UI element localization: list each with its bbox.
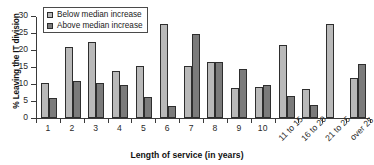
bar-group (346, 17, 370, 118)
y-tick-label: 10 (18, 78, 28, 88)
bar (302, 89, 310, 118)
y-tick-label: 0 (23, 112, 28, 122)
legend-label: Above median increase (57, 21, 143, 30)
x-tick-label: 1 (46, 123, 51, 133)
x-tick-label: 6 (165, 123, 170, 133)
bar (255, 87, 263, 118)
legend: Below median increaseAbove median increa… (43, 7, 148, 33)
bar (96, 83, 104, 118)
bar (73, 81, 81, 118)
y-tick: 15 (31, 67, 36, 68)
bar (160, 24, 168, 118)
legend-swatch (47, 12, 53, 18)
y-tick-label: 30 (18, 10, 28, 20)
bar-group (180, 17, 204, 118)
bar (239, 69, 247, 118)
y-tick: 25 (31, 33, 36, 34)
x-tick-label: 2 (69, 123, 74, 133)
x-tick-label: 4 (117, 123, 122, 133)
x-tick-label: 9 (236, 123, 241, 133)
bar-group (275, 17, 299, 118)
x-tick-label: 7 (189, 123, 194, 133)
bar (358, 64, 366, 118)
bar (65, 47, 73, 118)
legend-item: Below median increase (47, 10, 143, 19)
y-tick: 20 (31, 50, 36, 51)
y-tick-label: 15 (18, 61, 28, 71)
bar-group (299, 17, 323, 118)
bar (112, 71, 120, 118)
bar (49, 98, 57, 118)
bar (207, 62, 215, 118)
bar (136, 66, 144, 118)
legend-swatch (47, 23, 53, 29)
y-tick-label: 5 (23, 95, 28, 105)
bar (88, 42, 96, 118)
bar (184, 66, 192, 118)
x-tick-label: 8 (213, 123, 218, 133)
bar (215, 62, 223, 118)
bar (168, 106, 176, 118)
bar (41, 83, 49, 118)
y-tick: 5 (31, 101, 36, 102)
y-tick: 30 (31, 16, 36, 17)
legend-item: Above median increase (47, 21, 143, 30)
x-tick-label: 5 (141, 123, 146, 133)
legend-label: Below median increase (57, 10, 142, 19)
bar-group (203, 17, 227, 118)
bar-chart: % Leaving the IT division 051015202530 1… (0, 0, 374, 165)
bar (350, 78, 358, 118)
bar (279, 45, 287, 118)
y-tick-label: 25 (18, 27, 28, 37)
bar (144, 97, 152, 118)
bar (120, 85, 128, 118)
y-tick-label: 20 (18, 44, 28, 54)
bar-group (156, 17, 180, 118)
x-axis-title: Length of service (in years) (0, 150, 374, 160)
y-tick: 10 (31, 84, 36, 85)
bar (287, 96, 295, 118)
bar-group (251, 17, 275, 118)
x-tick-label: 3 (93, 123, 98, 133)
bar-group (322, 17, 346, 118)
bar (192, 34, 200, 118)
x-tick-label: 10 (258, 123, 268, 133)
bar (231, 88, 239, 118)
bar-group (227, 17, 251, 118)
bar (326, 24, 334, 118)
bar (263, 85, 271, 118)
